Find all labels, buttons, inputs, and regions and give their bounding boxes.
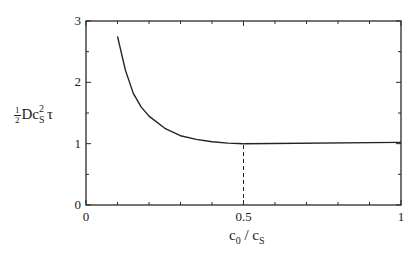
x-label-c0: c	[229, 227, 236, 243]
x-label-cs: c	[252, 227, 259, 243]
fraction-denominator: 2	[14, 116, 21, 125]
x-tick-label: 0	[83, 209, 90, 224]
y-label-subscript: S	[39, 114, 45, 125]
axis-ticks	[86, 21, 401, 205]
y-tick-label: 3	[75, 13, 82, 28]
series-curve	[118, 36, 244, 143]
y-tick-label: 1	[75, 136, 82, 151]
y-label-scripts: 2S	[39, 109, 47, 119]
y-label-superscript: 2	[39, 103, 44, 114]
data-series	[118, 36, 402, 205]
y-tick-label: 2	[75, 74, 82, 89]
x-tick-label: 0.5	[235, 209, 251, 224]
x-axis-label: c0 / cS	[229, 227, 265, 246]
x-label-cs-subscript: S	[259, 235, 265, 246]
line-chart: 00.510123	[0, 0, 418, 254]
series-plateau	[244, 142, 402, 143]
y-tick-label: 0	[75, 197, 82, 212]
plot-frame	[86, 21, 401, 205]
y-label-tau: τ	[47, 106, 53, 122]
axis-tick-labels: 00.510123	[75, 13, 405, 224]
y-axis-label: 1 2 Dc2Sτ	[14, 106, 53, 125]
x-tick-label: 1	[398, 209, 405, 224]
y-label-fraction: 1 2	[14, 106, 21, 125]
y-label-main: Dc	[22, 106, 40, 122]
plot-border	[86, 21, 401, 205]
x-label-separator: /	[241, 227, 253, 243]
